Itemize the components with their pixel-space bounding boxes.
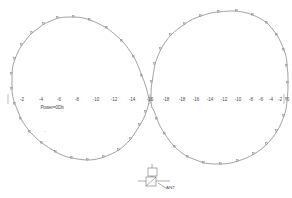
left-tick-label-8: -18 [163, 97, 169, 102]
right-lobe-curve [151, 11, 288, 164]
right-tick-label-4: -10 [235, 97, 241, 102]
right-tick-label-5: -8 [249, 97, 253, 102]
left-tick-label-0: -2 [20, 97, 24, 102]
schematic-ant-lead [158, 183, 166, 188]
scan-artifact: * [44, 131, 45, 135]
left-tick-label-1: -4 [39, 97, 43, 102]
left-tick-label-3: -8 [75, 97, 79, 102]
left-lobe-markers [11, 16, 147, 161]
schematic-upper-box [148, 168, 157, 176]
left-tick-label-4: -10 [93, 97, 99, 102]
right-tick-label-2: -14 [207, 97, 213, 102]
right-tick-label-0: -18 [179, 97, 185, 102]
left-tick-label-7: -16 [147, 97, 153, 102]
antenna-annotation: ANT. [166, 185, 175, 190]
left-tick-label-2: -6 [57, 97, 61, 102]
left-tick-label-5: -12 [111, 97, 117, 102]
power-annotation: Power=0Db [40, 105, 63, 110]
right-tick-label-6: -6 [259, 97, 263, 102]
right-tick-label-7: -4 [269, 97, 273, 102]
right-tick-label-3: -12 [221, 97, 227, 102]
right-tick-label-1: -16 [193, 97, 199, 102]
antenna-pattern-figure: -2 -4 -6 -8 -10 -12 -14 -16 -18 -18 -16 … [0, 0, 292, 198]
right-lobe-markers [151, 10, 289, 165]
right-tick-label-8: -2 [278, 97, 282, 102]
right-tick-label-9: 0 [287, 97, 289, 102]
left-tick-label-6: -14 [129, 97, 135, 102]
schematic-diagonal [146, 177, 156, 186]
left-lobe-curve [12, 17, 149, 160]
